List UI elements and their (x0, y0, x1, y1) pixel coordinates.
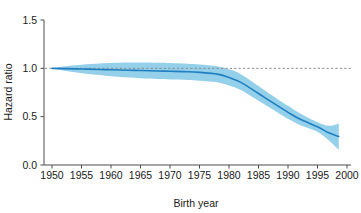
y-tick-label: 0.0 (22, 159, 37, 171)
x-tick-label: 2000 (335, 169, 359, 181)
x-axis-ticks: 1950195519601965197019751980198519901995… (40, 165, 359, 181)
x-tick-label: 1970 (158, 169, 182, 181)
y-axis-title: Hazard ratio (2, 63, 14, 120)
x-tick-label: 1955 (70, 169, 94, 181)
y-tick-label: 1.0 (22, 62, 37, 74)
x-tick-label: 1985 (247, 169, 271, 181)
x-axis-title: Birth year (174, 197, 219, 209)
x-tick-label: 1990 (276, 169, 300, 181)
confidence-interval-band (52, 62, 339, 150)
x-tick-label: 1960 (99, 169, 123, 181)
y-tick-label: 1.5 (22, 14, 37, 26)
hazard-ratio-chart: 1950195519601965197019751980198519901995… (0, 0, 361, 213)
x-tick-label: 1950 (40, 169, 64, 181)
y-tick-label: 0.5 (22, 110, 37, 122)
x-tick-label: 1975 (188, 169, 212, 181)
x-tick-label: 1965 (129, 169, 153, 181)
x-tick-label: 1980 (217, 169, 241, 181)
x-tick-label: 1995 (306, 169, 330, 181)
y-axis-ticks: 0.00.51.01.5 (22, 14, 44, 171)
chart-canvas: 1950195519601965197019751980198519901995… (0, 0, 361, 213)
